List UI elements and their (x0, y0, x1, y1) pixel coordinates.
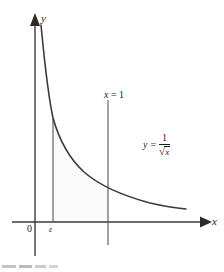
curve-equation-label: y = 1 √ x (143, 133, 170, 157)
x-equals-one-value: 1 (119, 89, 124, 100)
shaded-region (53, 118, 108, 222)
curve-equation-radicand: x (164, 146, 170, 157)
x-axis-label: x (212, 216, 217, 227)
x-equals-one-variable: x (104, 89, 108, 100)
curve-equation-numerator: 1 (162, 133, 167, 144)
x-equals-one-operator: = (111, 89, 117, 100)
curve-equation-denominator: √ x (159, 145, 170, 157)
cut-off-caption-fragment (2, 265, 58, 268)
figure-canvas (0, 0, 224, 272)
epsilon-label: ε (49, 226, 52, 234)
x-equals-one-label: x = 1 (104, 90, 124, 100)
curve-equation-fraction: 1 √ x (159, 133, 170, 157)
y-axis-label: y (41, 13, 46, 24)
curve-equation-operator: = (150, 140, 156, 150)
curve-equation-lhs: y (143, 140, 147, 150)
y-axis-arrowhead (30, 13, 40, 26)
origin-label: 0 (27, 224, 32, 234)
x-axis-arrowhead (200, 217, 212, 228)
